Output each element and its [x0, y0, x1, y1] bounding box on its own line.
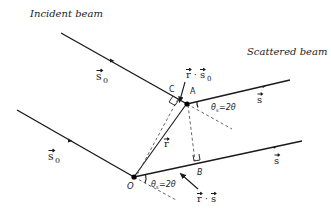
s-lower-label: s — [274, 154, 280, 166]
incident-beam-label: Incident beam — [29, 8, 103, 19]
point-c-label: C — [169, 85, 175, 94]
r-dot-s0-pointer — [180, 82, 185, 100]
c-to-o-dashed — [137, 99, 178, 175]
svg-text:s: s — [274, 155, 279, 166]
angle-label-upper: θ s =2θ — [211, 103, 236, 113]
s0-lower-label: s 0 — [48, 149, 60, 165]
angle-arc-o — [145, 175, 146, 184]
r-dot-s0-label: r · s 0 — [186, 68, 211, 83]
point-b-label: B — [197, 168, 203, 177]
r-dot-s-label: r · s — [197, 192, 216, 204]
point-a-label: A — [190, 87, 196, 96]
r-vector — [134, 106, 185, 177]
svg-text:·: · — [194, 70, 197, 80]
svg-text:=2θ: =2θ — [219, 103, 236, 112]
point-a-dot — [184, 101, 189, 106]
lower-incident-beam — [17, 110, 134, 177]
svg-text:·: · — [205, 194, 208, 204]
svg-text:0: 0 — [103, 76, 108, 85]
a-to-b-dashed — [188, 105, 195, 161]
r-dot-s-pointer — [182, 175, 198, 189]
angle-label-lower: θ s =2θ — [151, 180, 176, 190]
scattered-beam-label: Scattered beam — [247, 46, 327, 57]
point-o-label: O — [127, 181, 134, 191]
scattering-diagram: Incident beam Scattered beam A C B O s 0… — [0, 0, 331, 213]
s0-upper-label: s 0 — [96, 69, 108, 85]
svg-text:0: 0 — [207, 75, 211, 83]
point-o-dot — [131, 174, 136, 179]
upper-scattered-beam — [187, 80, 290, 104]
angle-arc-a — [197, 102, 198, 108]
svg-text:s: s — [257, 94, 262, 105]
svg-text:0: 0 — [55, 156, 60, 165]
r-label: r — [164, 138, 169, 149]
s-upper-label: s — [257, 93, 263, 105]
svg-text:=2θ: =2θ — [159, 180, 176, 189]
